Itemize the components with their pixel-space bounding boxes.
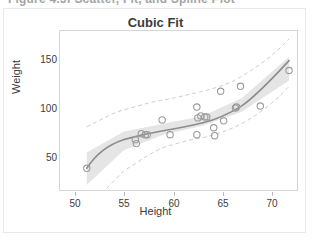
x-tick-mark (75, 192, 76, 196)
data-point (212, 133, 218, 139)
prediction-limit-upper-line (87, 39, 289, 127)
data-point (159, 117, 165, 123)
x-tick-mark (124, 192, 125, 196)
data-point (217, 88, 223, 94)
confidence-band-fill (87, 57, 289, 185)
figure-caption: Figure 4.5f Scatter, Fit, and Spline Plo… (8, 0, 235, 6)
x-tick-mark (174, 192, 175, 196)
x-axis-label: Height (4, 205, 307, 217)
prediction-limits-group (87, 39, 289, 190)
figure-panel: Cubic Fit Weight 150 100 50 (3, 8, 306, 233)
data-point (257, 103, 263, 109)
figure-caption-strip: Figure 4.5f Scatter, Fit, and Spline Plo… (0, 0, 313, 7)
y-tick-label: 50 (23, 152, 57, 163)
figure-root: Figure 4.5f Scatter, Fit, and Spline Plo… (0, 0, 313, 240)
x-tick-mark (223, 192, 224, 196)
chart-title: Cubic Fit (4, 15, 307, 30)
data-point (211, 125, 217, 131)
y-tick-label: 150 (23, 54, 57, 65)
plot-area (59, 30, 298, 191)
plot-svg (60, 31, 297, 190)
x-tick-mark (272, 192, 273, 196)
y-axis-ticks: 150 100 50 (19, 30, 57, 191)
data-point (194, 132, 200, 138)
data-point (194, 104, 200, 110)
data-point (220, 118, 226, 124)
data-point (237, 83, 243, 89)
y-tick-label: 100 (23, 103, 57, 114)
confidence-band-group (87, 57, 289, 185)
